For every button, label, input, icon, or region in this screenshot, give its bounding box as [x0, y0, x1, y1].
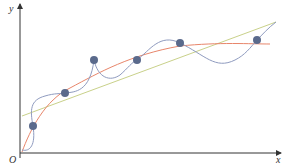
y-axis-label: y [8, 3, 14, 14]
data-points [29, 36, 261, 130]
interpolation-curve [22, 22, 276, 150]
origin-label: O [9, 154, 16, 165]
linear-fit-line [22, 22, 276, 116]
log-fit-curve [22, 44, 270, 153]
x-axis-label: x [275, 154, 281, 165]
chart-canvas: y x O [0, 0, 287, 165]
